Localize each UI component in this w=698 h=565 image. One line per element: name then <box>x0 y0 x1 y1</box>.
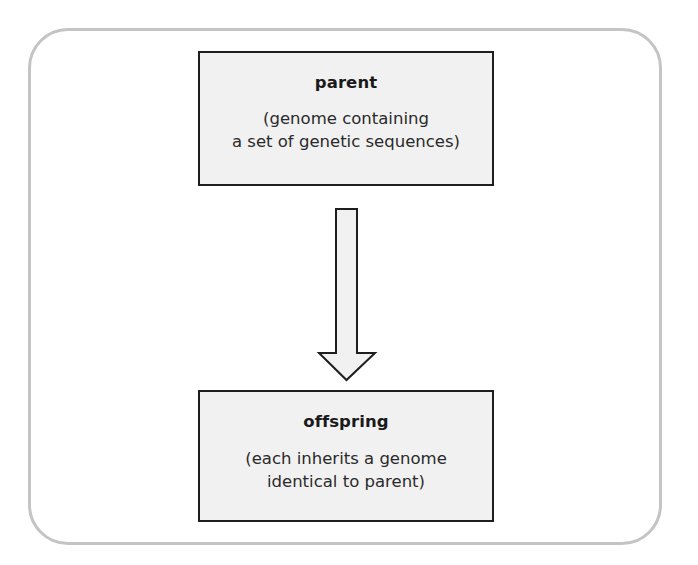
offspring-description: (each inherits a genome identical to par… <box>200 447 492 493</box>
offspring-description-line-2: identical to parent) <box>200 470 492 493</box>
parent-title: parent <box>200 73 492 93</box>
offspring-box: offspring (each inherits a genome identi… <box>198 390 494 522</box>
offspring-description-line-1: (each inherits a genome <box>200 447 492 470</box>
parent-description: (genome containing a set of genetic sequ… <box>200 107 492 153</box>
parent-description-line-2: a set of genetic sequences) <box>200 130 492 153</box>
down-arrow-icon <box>316 207 378 383</box>
offspring-title: offspring <box>200 412 492 432</box>
parent-description-line-1: (genome containing <box>200 107 492 130</box>
parent-box: parent (genome containing a set of genet… <box>198 51 494 186</box>
